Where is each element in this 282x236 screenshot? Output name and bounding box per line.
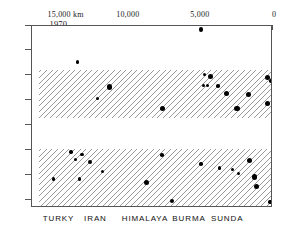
x-tick-label-0: 0 bbox=[272, 10, 276, 19]
data-point bbox=[265, 101, 270, 106]
data-point bbox=[88, 160, 92, 164]
data-point bbox=[252, 174, 257, 179]
data-point bbox=[216, 84, 220, 88]
data-point bbox=[107, 84, 112, 89]
data-point bbox=[160, 153, 164, 157]
x-tick-label-5000: 5,000 bbox=[190, 10, 209, 19]
data-point bbox=[144, 180, 149, 185]
data-point bbox=[76, 60, 79, 63]
x-tick-label-10000: 10,000 bbox=[116, 10, 139, 19]
region-label-sunda: SUNDA bbox=[211, 214, 244, 223]
data-point bbox=[218, 166, 221, 169]
data-point bbox=[80, 153, 84, 157]
data-point bbox=[199, 162, 202, 165]
x-tick-label-15000: 15,000 km bbox=[48, 10, 84, 19]
region-label-burma: BURMA bbox=[172, 214, 205, 223]
data-point bbox=[199, 27, 204, 32]
data-point bbox=[234, 106, 239, 111]
region-label-iran: IRAN bbox=[84, 214, 107, 223]
data-point bbox=[268, 200, 271, 203]
plot-area bbox=[31, 25, 272, 207]
data-point bbox=[224, 91, 229, 96]
data-point bbox=[269, 79, 272, 82]
region-label-himalaya: HIMALAYA bbox=[122, 214, 168, 223]
scatter-chart: 19701960195019401930192019101900 15,000 … bbox=[0, 0, 282, 236]
data-point bbox=[78, 177, 81, 180]
region-label-turky: TURKY bbox=[43, 214, 75, 223]
data-point bbox=[69, 150, 72, 153]
